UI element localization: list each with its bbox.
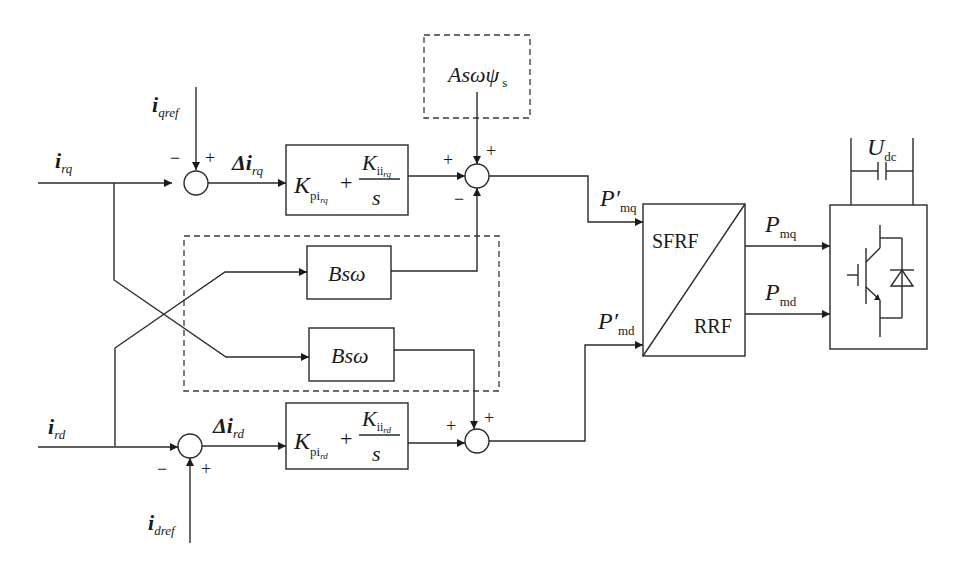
coupling-upper-label: Bsω xyxy=(328,261,366,286)
idref-input-signal: idref xyxy=(148,458,190,543)
sign-plus-d2-left: + xyxy=(446,416,456,436)
ird-input-signal: ird xyxy=(38,414,178,447)
plus-d-label: + xyxy=(340,426,352,451)
irq-cross-coupling-path xyxy=(114,183,309,357)
sign-minus-q1: − xyxy=(170,148,180,168)
ird-label: ird xyxy=(48,414,66,442)
sign-plus-d1: + xyxy=(201,459,211,479)
feedforward-block: Asωψs xyxy=(424,35,530,164)
pmd-prime-label: P′md xyxy=(597,308,635,338)
s-q-label: s xyxy=(372,185,381,210)
pmd-label: Pmd xyxy=(764,279,797,309)
rrf-label: RRF xyxy=(694,315,732,337)
feedforward-label: Asωψs xyxy=(446,62,507,90)
coupling-lower-label: Bsω xyxy=(331,343,369,368)
pmq-label: Pmq xyxy=(764,211,797,241)
sfrf-label: SFRF xyxy=(652,230,699,252)
irq-input-signal: irq xyxy=(38,148,172,183)
delta-ird-label: Δird xyxy=(212,413,244,441)
pmq-prime-label: P′mq xyxy=(599,185,637,215)
idref-label: idref xyxy=(148,510,177,538)
iqref-label: iqref xyxy=(152,92,181,120)
dc-link-capacitor: Udc xyxy=(851,134,913,205)
sum-junction-q1 xyxy=(184,171,208,195)
sum-junction-q2 xyxy=(465,164,489,188)
sign-plus-q2-left: + xyxy=(443,150,453,170)
sign-plus-d2-top: + xyxy=(484,408,494,428)
sum-junction-d1 xyxy=(178,434,202,458)
sign-plus-q2-top: + xyxy=(486,141,496,161)
coupling-block-upper: Bsω xyxy=(307,246,391,299)
frame-transform-block: SFRF RRF xyxy=(643,204,745,356)
irq-label: irq xyxy=(55,148,73,176)
delta-irq-label: Δirq xyxy=(231,150,263,178)
pi-controller-d: Kpird + Kiird s xyxy=(286,403,408,469)
sum-junction-d2 xyxy=(465,429,489,453)
pmd-prime-signal xyxy=(489,345,643,441)
sign-minus-q2-bottom: − xyxy=(454,189,464,209)
plus-q-label: + xyxy=(340,170,352,195)
pi-controller-q: Kpirq + Kiirq s xyxy=(286,145,408,215)
inverter-block xyxy=(830,205,927,349)
s-d-label: s xyxy=(372,441,381,466)
coupling-block-lower: Bsω xyxy=(309,328,394,381)
control-block-diagram: irq iqref − + Δirq Kpirq + Kiirq s + + −… xyxy=(0,0,953,575)
sign-plus-q1: + xyxy=(205,148,215,168)
udc-label: Udc xyxy=(867,134,897,164)
sign-minus-d1: − xyxy=(157,459,167,479)
ird-cross-coupling-path xyxy=(115,272,307,446)
